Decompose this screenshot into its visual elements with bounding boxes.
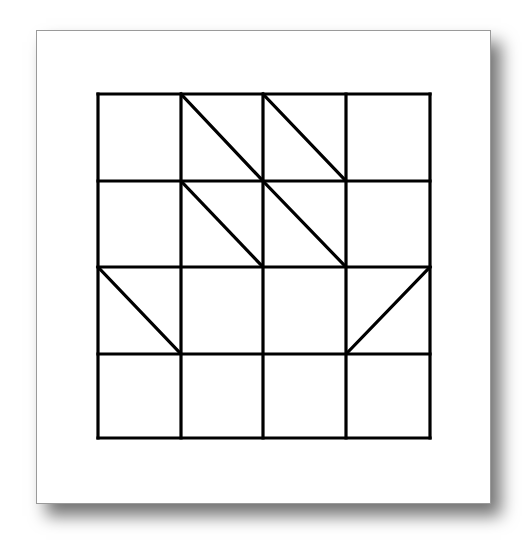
diagonal-line — [98, 267, 181, 354]
diagonal-line — [263, 181, 346, 267]
diagonal-line — [181, 181, 263, 267]
diagonal-line — [346, 267, 430, 354]
diagonal-line — [181, 94, 263, 181]
diagonal-line — [263, 94, 346, 181]
quilt-grid-diagram — [0, 0, 522, 543]
